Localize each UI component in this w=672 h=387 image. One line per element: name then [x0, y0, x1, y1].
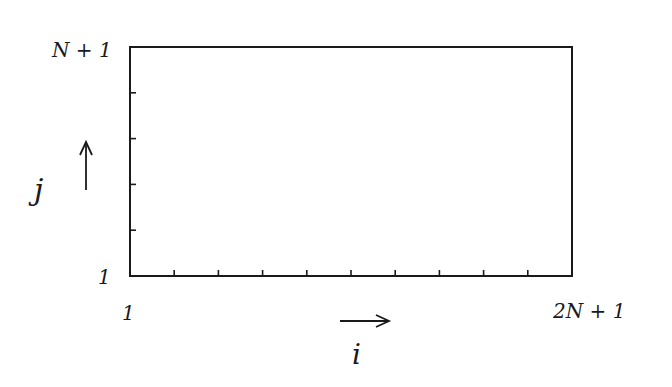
domain-box — [130, 47, 572, 276]
x-axis-start-label: 1 — [122, 301, 135, 325]
x-axis-end-label: 2N + 1 — [552, 299, 625, 323]
diagram-canvas: N + 1 1 j 1 2N + 1 i — [0, 0, 672, 387]
y-axis-start-label: 1 — [98, 265, 111, 289]
right-arrow-icon — [340, 315, 389, 327]
x-axis-variable: i — [352, 338, 361, 371]
y-axis-variable: j — [28, 172, 43, 207]
y-axis-end-label: N + 1 — [51, 38, 112, 62]
up-arrow-icon — [80, 142, 92, 190]
